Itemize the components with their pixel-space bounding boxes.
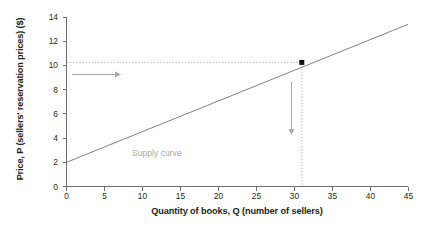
y-tick-label: 10 — [49, 60, 59, 70]
x-tick-label: 35 — [328, 191, 338, 201]
y-tick-label: 6 — [53, 109, 58, 119]
x-tick-label: 10 — [138, 191, 148, 201]
y-axis-ticks — [63, 17, 67, 187]
down-arrow-annotation — [289, 82, 295, 135]
y-tick-label: 4 — [53, 133, 58, 143]
x-tick-label: 45 — [404, 191, 414, 201]
x-tick-labels: 0 5 10 15 20 25 30 35 40 45 — [64, 191, 413, 201]
x-axis-title: Quantity of books, Q (number of sellers) — [66, 206, 408, 216]
chart-plot-area: 0 2 4 6 8 10 12 14 0 5 10 15 20 25 30 35… — [0, 0, 426, 229]
y-tick-labels: 0 2 4 6 8 10 12 14 — [49, 12, 59, 192]
y-tick-label: 2 — [53, 157, 58, 167]
x-tick-label: 20 — [214, 191, 224, 201]
x-tick-label: 30 — [290, 191, 300, 201]
x-tick-label: 0 — [64, 191, 69, 201]
equilibrium-point-marker — [299, 60, 304, 65]
supply-curve-chart: Price, P (sellers' reservation prices) (… — [0, 0, 426, 229]
x-tick-label: 15 — [176, 191, 186, 201]
x-tick-label: 25 — [252, 191, 262, 201]
y-tick-label: 14 — [49, 12, 59, 22]
y-tick-label: 12 — [49, 36, 59, 46]
right-arrow-annotation — [72, 72, 121, 78]
supply-curve-label: Supply curve — [132, 148, 182, 158]
x-tick-label: 5 — [102, 191, 107, 201]
y-tick-label: 0 — [53, 182, 58, 192]
x-tick-label: 40 — [366, 191, 376, 201]
y-tick-label: 8 — [53, 85, 58, 95]
x-axis-ticks — [67, 187, 409, 191]
supply-curve-line — [67, 24, 409, 162]
